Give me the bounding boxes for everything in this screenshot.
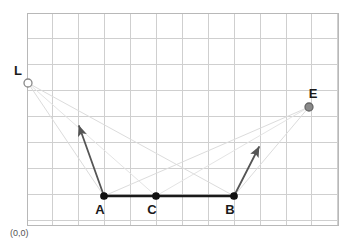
ray-B-to-E — [234, 107, 309, 196]
point-marker-L — [24, 79, 32, 87]
diagram-canvas: LEACB (0,0) — [0, 0, 353, 243]
geometry-diagram: LEACB (0,0) — [0, 0, 353, 243]
point-marker-E — [305, 103, 313, 111]
point-label-C: C — [147, 202, 157, 217]
point-label-E: E — [309, 86, 318, 101]
point-label-B: B — [225, 202, 234, 217]
point-label-A: A — [95, 202, 105, 217]
ray-A-to-E — [104, 107, 309, 196]
point-marker-C — [153, 193, 159, 199]
origin-label: (0,0) — [10, 228, 29, 238]
point-label-L: L — [14, 63, 22, 78]
point-marker-A — [101, 193, 107, 199]
faint-ray-layer — [28, 83, 309, 196]
normal-arrow-layer — [79, 126, 259, 196]
point-marker-B — [231, 193, 237, 199]
point-marker-layer — [24, 79, 313, 199]
normal-at-A — [79, 126, 104, 196]
background-grid — [27, 13, 338, 225]
